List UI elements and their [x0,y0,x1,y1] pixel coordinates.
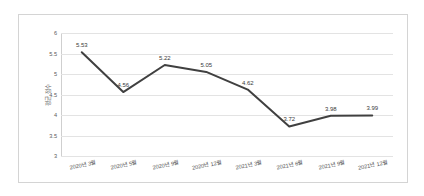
y-axis-tick: 5.5 [49,51,57,57]
data-label: 3.72 [283,116,295,122]
data-label: 5.53 [76,42,88,48]
y-axis-tick: 4.5 [49,92,57,98]
x-axis-tick: 2020년 9월 [152,158,180,171]
y-axis-tick: 6 [54,30,57,36]
x-axis-tick: 2021년 3월 [235,158,263,171]
data-label: 5.05 [200,62,212,68]
x-axis-tick: 2021년 12월 [358,158,389,172]
x-axis-tick: 2020년 5월 [110,158,138,171]
y-axis-tick: 4 [54,112,57,118]
x-axis-tick: 2021년 9월 [318,158,346,171]
data-label: 4.62 [242,80,254,86]
x-axis-tick: 2020년 12월 [192,158,223,172]
chart-frame: 평균 점수 65.554.543.53 5.534.565.225.054.62… [18,14,408,183]
series-line [82,52,373,126]
data-label: 4.56 [117,82,129,88]
x-axis-tick: 2020년 3월 [69,158,97,171]
y-axis-tick: 3.5 [49,133,57,139]
y-axis-tick: 5 [54,71,57,77]
plot-area: 5.534.565.225.054.623.723.983.99 [61,33,393,156]
y-axis-tick-labels: 65.554.543.53 [19,33,57,156]
gridline [61,156,393,157]
x-axis-tick: 2021년 6월 [276,158,304,171]
line-series [61,33,393,156]
data-label: 3.98 [325,106,337,112]
data-label: 5.22 [159,55,171,61]
y-axis-tick: 3 [54,153,57,159]
x-axis-tick-labels: 2020년 3월2020년 5월2020년 9월2020년 12월2021년 3… [61,161,393,183]
data-label: 3.99 [366,105,378,111]
